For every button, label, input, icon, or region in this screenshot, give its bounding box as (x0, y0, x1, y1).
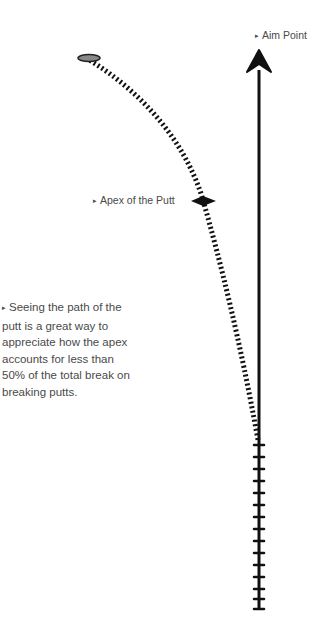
arrow-up-icon (247, 50, 271, 72)
apex-label: ▸Apex of the Putt (93, 194, 175, 206)
triangle-marker-icon: ▸ (2, 304, 6, 311)
note-text: Seeing the path of the putt is a great w… (2, 301, 130, 398)
triangle-marker-icon: ▸ (255, 32, 259, 39)
apex-diamond-icon (191, 196, 216, 206)
aim-point-label: ▸Aim Point (255, 29, 307, 41)
triangle-marker-icon: ▸ (93, 197, 97, 204)
golf-ball-icon (78, 54, 100, 61)
apex-text: Apex of the Putt (100, 194, 175, 206)
aim-point-text: Aim Point (262, 29, 307, 41)
explanation-note: ▸Seeing the path of the putt is a great … (2, 299, 140, 400)
